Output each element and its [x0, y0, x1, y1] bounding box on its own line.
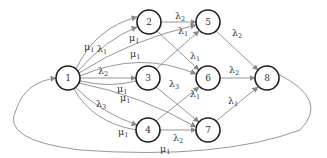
edge-label: λ2 [175, 10, 185, 23]
node-label: 6 [205, 73, 211, 83]
node-8: 8 [255, 66, 279, 90]
edge-1-3-mu [80, 81, 136, 85]
node-2: 2 [137, 10, 161, 34]
edge-label: λ1 [190, 50, 200, 63]
node-label: 8 [264, 73, 270, 83]
node-1: 1 [56, 66, 80, 90]
edge-label: λ3 [169, 78, 179, 91]
node-7: 7 [196, 118, 220, 142]
edge-label: μ1 [120, 92, 130, 105]
node-3: 3 [136, 66, 160, 90]
edge-label: μ1 [160, 143, 170, 156]
edge-label: λ3 [96, 98, 106, 111]
edge-label: λ2 [232, 27, 242, 40]
node-label: 1 [65, 73, 71, 83]
node-6: 6 [196, 66, 220, 90]
nodes: 1 2 3 4 5 6 7 8 [56, 10, 279, 142]
edge-label: λ2 [229, 64, 239, 77]
edge-label: μ1 [129, 32, 139, 45]
node-label: 3 [145, 73, 151, 83]
node-label: 7 [205, 125, 211, 135]
node-label: 2 [146, 17, 152, 27]
node-label: 5 [205, 17, 211, 27]
node-4: 4 [136, 118, 160, 142]
network-diagram: μ1 λ1 μ1 μ1 λ2 μ1 μ1 λ3 μ1 λ2 λ1 λ1 λ3 λ… [0, 0, 327, 158]
edge-label: μ1 [130, 48, 140, 61]
node-label: 4 [145, 125, 151, 135]
edge-label: λ1 [190, 88, 200, 101]
edge-label: λ2 [173, 132, 183, 145]
edge-1-4-lambda [76, 88, 137, 125]
node-5: 5 [196, 10, 220, 34]
edge-label: λ1 [228, 95, 238, 108]
